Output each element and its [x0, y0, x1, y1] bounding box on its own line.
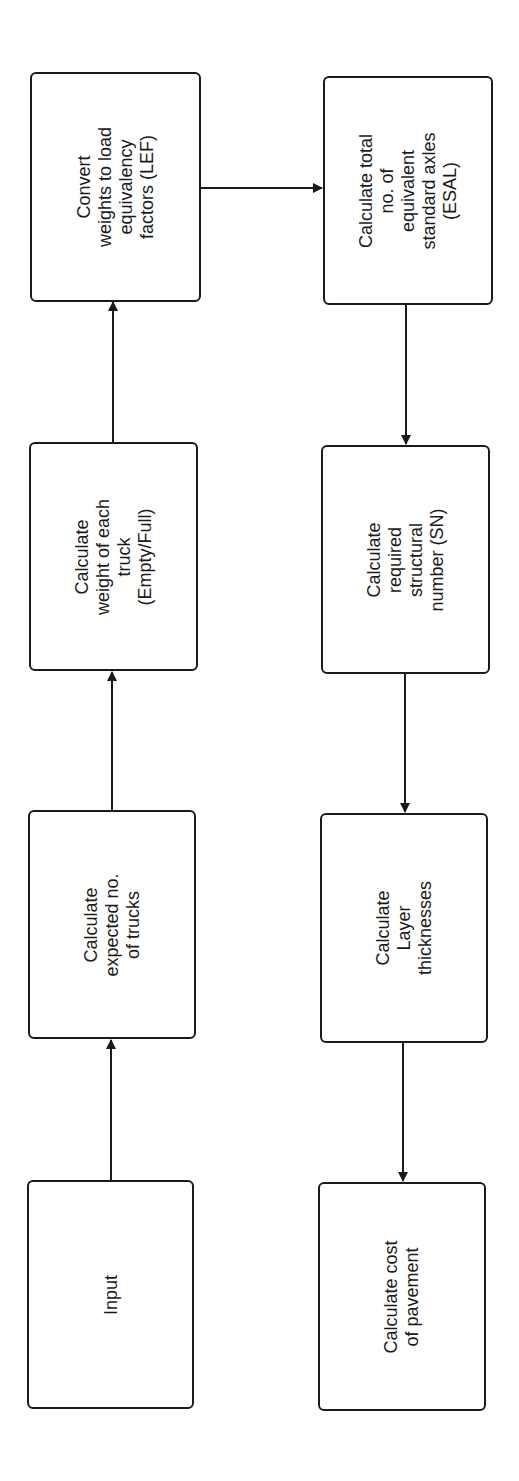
node-label: Calculate required structural number (SN… — [364, 460, 448, 660]
node-label: Calculate expected no. of trucks — [81, 825, 144, 1025]
node-label: Calculate cost of pavement — [381, 1197, 423, 1397]
node-label: Calculate weight of each truck (Empty/Fu… — [72, 457, 156, 657]
node-label: Calculate Layer thicknesses — [373, 828, 436, 1028]
node-sn: Calculate required structural number (SN… — [321, 445, 490, 674]
node-lef: Convert weights to load equivalency fact… — [30, 72, 201, 302]
node-label: Calculate total no. of equivalent standa… — [356, 91, 461, 291]
node-input: Input — [27, 1180, 194, 1409]
node-weight: Calculate weight of each truck (Empty/Fu… — [29, 442, 198, 671]
node-trucks: Calculate expected no. of trucks — [28, 810, 196, 1039]
node-layers: Calculate Layer thicknesses — [320, 813, 488, 1043]
node-esal: Calculate total no. of equivalent standa… — [323, 76, 493, 305]
node-label: Input — [100, 1195, 121, 1395]
node-label: Convert weights to load equivalency fact… — [74, 87, 158, 287]
flowchart-canvas: Convert weights to load equivalency fact… — [0, 0, 519, 1481]
node-cost: Calculate cost of pavement — [318, 1182, 486, 1411]
